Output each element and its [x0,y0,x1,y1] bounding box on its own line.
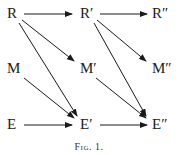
node-E-prime: E′ [80,117,92,132]
node-E-double-prime: E″ [152,117,167,132]
edge-R1-E2 [94,23,146,116]
edge-M1-E2 [96,78,146,118]
figure-caption: Fig. 1. [0,141,178,152]
edge-R-E1 [19,23,77,116]
node-R: R [7,6,17,21]
node-R-prime: R′ [80,6,93,21]
node-E: E [7,117,16,132]
node-M: M [7,61,20,76]
edge-M-E1 [24,78,74,118]
node-R-double-prime: R″ [152,6,168,21]
node-M-prime: M′ [80,61,97,76]
node-M-double-prime: M″ [152,61,172,76]
